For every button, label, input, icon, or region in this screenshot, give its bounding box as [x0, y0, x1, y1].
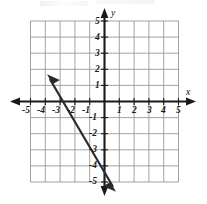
y-tick-label--1: -1	[89, 113, 97, 123]
plotted-line	[47, 74, 116, 192]
y-tick-label--3: -3	[89, 145, 97, 155]
x-tick-label--3: -3	[52, 106, 60, 116]
graph-figure: -5 -4 -3 -2 -1 1 2 3 4 5 5 4 3 2 1 -1 -2…	[0, 0, 207, 204]
y-tick-label-5: 5	[95, 17, 100, 27]
y-axis-label: y	[111, 9, 115, 19]
x-tick-label--5: -5	[22, 106, 30, 116]
x-tick-label-2: 2	[132, 106, 137, 116]
x-tick-label--4: -4	[37, 106, 45, 116]
x-tick-label-5: 5	[176, 106, 181, 116]
y-tick-label-2: 2	[95, 65, 100, 75]
y-tick-label--2: -2	[89, 129, 97, 139]
x-tick-label-3: 3	[147, 106, 152, 116]
y-tick-label-4: 4	[95, 33, 100, 43]
y-tick-label--4: -4	[89, 161, 97, 171]
y-tick-label--5: -5	[89, 177, 97, 187]
x-tick-label-4: 4	[161, 106, 166, 116]
coordinate-plane-svg	[0, 0, 207, 204]
x-tick-label--2: -2	[67, 106, 75, 116]
x-axis-label: x	[186, 88, 190, 98]
x-tick-label-1: 1	[117, 106, 122, 116]
y-tick-label-1: 1	[95, 81, 100, 91]
y-tick-label-3: 3	[95, 49, 100, 59]
